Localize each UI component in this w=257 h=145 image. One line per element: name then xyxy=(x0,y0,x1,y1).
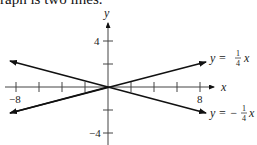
line-negative-slope-left xyxy=(10,61,108,87)
svg-text:x: x xyxy=(248,106,255,120)
x-tick-label-8: 8 xyxy=(197,93,203,105)
svg-text:1: 1 xyxy=(242,104,246,113)
line-positive-slope-left xyxy=(10,87,108,113)
svg-text:1: 1 xyxy=(236,49,240,58)
svg-text:y =: y = xyxy=(209,51,226,65)
x-axis-label: x xyxy=(220,80,227,94)
graph: x y −8 8 4 −4 y = 1 4 x y = − 1 4 x xyxy=(0,0,257,145)
equation-positive: y = 1 4 x xyxy=(209,49,250,68)
svg-text:4: 4 xyxy=(236,59,240,68)
svg-text:x: x xyxy=(243,51,250,65)
equation-negative: y = − 1 4 x xyxy=(209,104,255,123)
y-tick-label-4: 4 xyxy=(94,35,100,47)
x-tick-label-neg8: −8 xyxy=(9,93,21,105)
svg-text:y = −: y = − xyxy=(209,106,238,120)
y-tick-label-neg4: −4 xyxy=(89,127,101,139)
y-axis-label: y xyxy=(103,6,110,20)
svg-text:4: 4 xyxy=(242,114,246,123)
line-negative-slope xyxy=(108,87,206,113)
